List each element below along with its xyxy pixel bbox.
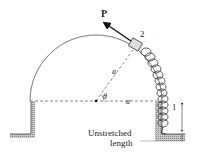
label-radius-horizontal: a <box>126 97 130 106</box>
label-block-2: 2 <box>140 29 145 39</box>
label-angle-theta: θ <box>103 92 107 101</box>
spring <box>141 48 168 134</box>
left-floor-hatch <box>10 134 35 138</box>
left-wall-outline <box>10 101 31 134</box>
label-unstretched: Unstretched <box>88 128 132 138</box>
label-dimension-l: l <box>173 102 176 112</box>
label-force-p: P <box>101 8 107 19</box>
semicircle-track <box>30 35 162 101</box>
block-2 <box>128 38 142 51</box>
center-point <box>95 100 98 103</box>
right-floor-hatch <box>155 134 185 141</box>
spring-semicircle-diagram: P 2 a θ a l Unstretched length <box>0 0 199 155</box>
label-length: length <box>110 138 133 148</box>
label-radius-slant: a <box>112 67 116 76</box>
left-wall-hatch <box>31 101 35 135</box>
